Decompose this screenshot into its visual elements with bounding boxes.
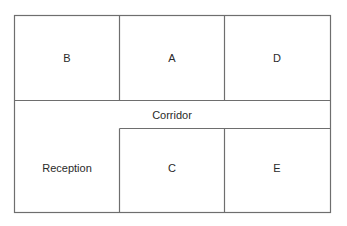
room-label-c: C [168, 162, 176, 174]
floor-plan: B A D Corridor Reception C E [0, 0, 347, 226]
room-label-e: E [273, 162, 280, 174]
room-label-b: B [63, 52, 70, 64]
room-label-reception: Reception [42, 162, 92, 174]
room-label-a: A [168, 52, 176, 64]
room-label-corridor: Corridor [152, 109, 192, 121]
room-label-d: D [273, 52, 281, 64]
